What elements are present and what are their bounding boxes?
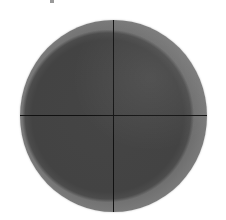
dark-disk	[20, 20, 207, 212]
top-edge-fragment	[50, 0, 54, 3]
crosshair-vertical-line	[113, 20, 114, 212]
crosshair-horizontal-line	[20, 115, 207, 116]
image-caption	[0, 0, 1, 1]
